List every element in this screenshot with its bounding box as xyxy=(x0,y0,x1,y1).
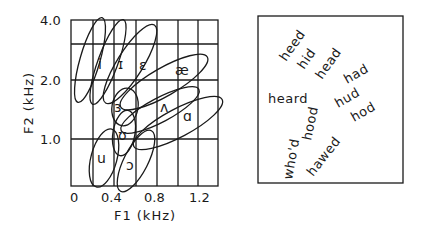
vowel-er: ɜ xyxy=(114,99,121,115)
word-whod: who'd xyxy=(280,137,302,180)
vowel-aw: ɔ xyxy=(126,157,134,173)
word-labels: heed hid head had heard hud hod hood who… xyxy=(268,27,378,181)
word-had: had xyxy=(341,61,371,87)
y-axis-label: F2 (kHz) xyxy=(21,72,36,134)
y-tick-4: 4.0 xyxy=(40,13,61,28)
vowel-uh: ʌ xyxy=(160,99,168,115)
vowel-formant-figure: i ɪ ɛ æ ɜ ʌ ɑ ʊ u ɔ 4.0 2.0 1.0 F2 (kHz)… xyxy=(0,0,424,243)
plot-grid xyxy=(71,20,218,186)
vowel-ae: æ xyxy=(175,62,189,78)
vowel-ah: ɑ xyxy=(183,108,192,124)
word-hood: hood xyxy=(299,105,321,142)
vowel-i: i xyxy=(98,56,102,72)
word-heard: heard xyxy=(268,91,308,106)
x-axis-label: F1 (kHz) xyxy=(114,208,176,223)
x-tick-12: 1.2 xyxy=(189,190,210,205)
x-tick-08: 0.8 xyxy=(144,190,165,205)
vowel-uu: ʊ xyxy=(118,127,127,143)
y-tick-2: 2.0 xyxy=(40,73,61,88)
vowel-eh: ɛ xyxy=(139,57,147,73)
y-tick-1: 1.0 xyxy=(40,132,61,147)
vowel-u: u xyxy=(97,150,106,166)
word-head: head xyxy=(312,45,344,82)
vowel-ellipses xyxy=(68,15,228,197)
x-tick-04: 0.4 xyxy=(101,190,122,205)
x-tick-0: 0 xyxy=(70,190,78,205)
vowel-ih: ɪ xyxy=(118,56,123,72)
